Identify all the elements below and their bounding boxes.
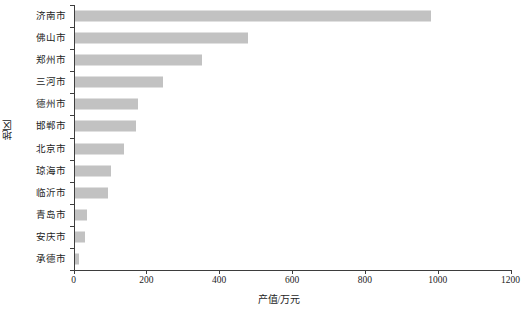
y-axis-tick-label: 郑州市 (14, 55, 66, 66)
y-axis-tick-label: 承德市 (14, 253, 66, 264)
y-axis-line (74, 5, 75, 270)
y-axis-tick-label: 佛山市 (14, 33, 66, 44)
y-axis-tick-label: 三河市 (14, 77, 66, 88)
bar (75, 165, 111, 176)
x-axis-tick-labels: 020040060080010001200 (74, 274, 511, 288)
x-axis-tick-label: 1000 (428, 274, 447, 286)
y-axis-tick-label: 安庆市 (14, 231, 66, 242)
y-axis-tick-label: 德州市 (14, 99, 66, 110)
y-axis-tick-label: 北京市 (14, 143, 66, 154)
bar (75, 187, 109, 198)
y-axis-tick-label: 青岛市 (14, 209, 66, 220)
y-axis-tick (70, 5, 74, 6)
x-axis-tick-label: 400 (212, 274, 226, 286)
y-axis-tick (70, 248, 74, 249)
bar (75, 143, 124, 154)
y-axis-tick (70, 93, 74, 94)
x-axis-tick-label: 800 (358, 274, 372, 286)
y-axis-tick (70, 160, 74, 161)
bar (75, 253, 80, 264)
y-axis-tick (70, 49, 74, 50)
y-axis-tick-label: 琼海市 (14, 165, 66, 176)
y-axis-tick-labels: 济南市佛山市郑州市三河市德州市邯郸市北京市琼海市临沂市青岛市安庆市承德市 (18, 5, 70, 270)
y-axis-tick (70, 182, 74, 183)
x-axis-tick-label: 600 (285, 274, 299, 286)
plot-area (74, 5, 511, 270)
bar (75, 77, 163, 88)
y-axis-tick-label: 临沂市 (14, 187, 66, 198)
y-axis-tick (70, 204, 74, 205)
bar (75, 99, 138, 110)
x-axis-tick-label: 1200 (501, 274, 520, 286)
y-axis-tick-label: 济南市 (14, 11, 66, 22)
bar (75, 11, 432, 22)
y-axis-tick (70, 226, 74, 227)
bar-chart: 地区 济南市佛山市郑州市三河市德州市邯郸市北京市琼海市临沂市青岛市安庆市承德市 … (0, 0, 528, 320)
y-axis-tick-label: 邯郸市 (14, 121, 66, 132)
bar (75, 209, 87, 220)
bar (75, 55, 202, 66)
x-axis-tick-label: 0 (71, 274, 76, 286)
y-axis-tick (70, 138, 74, 139)
y-axis-tick (70, 71, 74, 72)
x-axis-tick-label: 200 (139, 274, 153, 286)
x-axis-title: 产值/万元 (0, 294, 528, 306)
bar (75, 33, 249, 44)
y-axis-tick (70, 115, 74, 116)
y-axis-tick (70, 27, 74, 28)
bar (75, 121, 136, 132)
bar (75, 231, 86, 242)
